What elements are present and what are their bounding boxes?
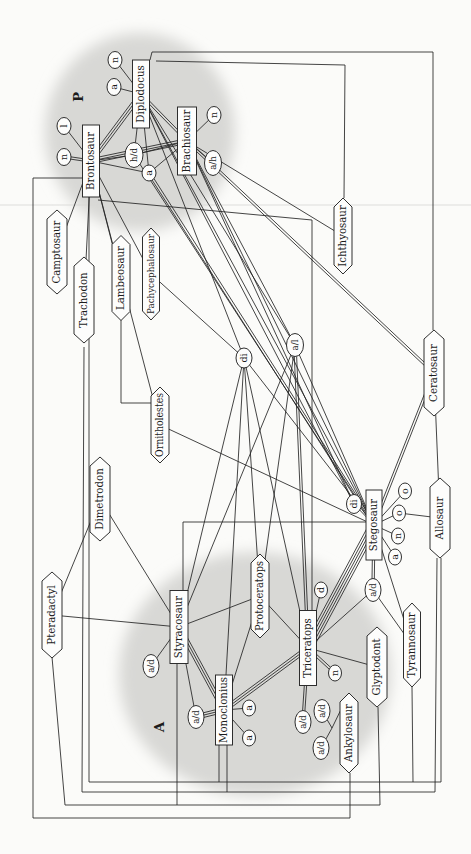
node-ah: a/h: [205, 151, 222, 176]
rotated-diagram-group: BrontosaurDiplodocusBrachiosaurStegosaur…: [33, 33, 450, 818]
node-n1: n: [108, 52, 122, 69]
node-ornith: Ornitholestes: [151, 387, 169, 463]
label-ad6: a/d: [368, 583, 378, 597]
label-ad2: a/d: [191, 710, 201, 724]
label-styraco: Styracosaur: [173, 596, 184, 658]
node-n3: n: [207, 107, 221, 124]
node-o1: o: [399, 483, 412, 499]
label-tracho: Trachodon: [78, 272, 89, 328]
node-tracho: Trachodon: [74, 257, 94, 343]
edge-al-stego: [295, 345, 374, 525]
label-proto: Protoceratops: [254, 561, 265, 631]
label-allo: Allosaur: [434, 497, 445, 541]
label-bronto: Brontosaur: [85, 132, 96, 190]
label-n2: n: [58, 154, 69, 160]
dinosaur-graph-diagram: BrontosaurDiplodocusBrachiosaurStegosaur…: [0, 0, 471, 854]
label-ichthyo: Ichthyosaur: [337, 205, 348, 267]
edge-brachio-stego: [187, 141, 374, 525]
label-o1: o: [399, 488, 410, 494]
label-ptera: Pteradactyl: [46, 585, 57, 644]
label-campto: Camptosaur: [51, 220, 62, 283]
scanned-book-figure-page: BrontosaurDiplodocusBrachiosaurStegosaur…: [0, 0, 471, 854]
group-label-A: A: [151, 721, 167, 733]
node-a2: a: [142, 165, 156, 181]
group-label-P: P: [70, 92, 86, 102]
label-ad5: a/d: [316, 741, 326, 755]
label-a1: a: [108, 84, 119, 90]
label-lambeo: Lambeosaur: [115, 246, 126, 310]
edge-dimetro-styraco: [100, 499, 179, 627]
node-tricer: Triceratops: [300, 611, 317, 686]
node-mono: Monoclonius: [216, 675, 233, 745]
label-hd: h/d: [129, 148, 139, 162]
node-dimetro: Dimetrodon: [90, 457, 110, 541]
node-ankylo: Ankylosaur: [340, 693, 358, 773]
node-ad1: a/d: [143, 655, 159, 678]
label-di1: di: [238, 353, 249, 362]
node-styraco: Styracosaur: [170, 591, 188, 664]
node-bronto: Brontosaur: [83, 125, 100, 197]
edge-pachy-di1: [151, 274, 244, 358]
node-ad3: a/d: [295, 711, 311, 734]
node-al: a/l: [287, 334, 304, 357]
node-o2: o: [393, 505, 406, 521]
node-cerato: Ceratosaur: [424, 330, 444, 416]
node-n2: n: [57, 149, 71, 166]
label-diplo: Diplodocus: [135, 65, 146, 123]
node-ptera: Pteradactyl: [42, 572, 62, 658]
node-di2: di: [347, 495, 362, 514]
node-a3: a: [389, 549, 402, 565]
label-n1: n: [109, 57, 120, 63]
label-dimetro: Dimetrodon: [94, 468, 105, 530]
label-a4: a: [243, 705, 254, 711]
label-n4: n: [392, 533, 403, 539]
label-pachy: Pachycephalosaur: [146, 233, 156, 314]
label-ah: a/h: [208, 156, 218, 170]
label-l1: l: [58, 124, 69, 127]
label-tyranno: Tyrannosaur: [406, 612, 417, 678]
node-ad6: a/d: [365, 579, 381, 602]
label-al: a/l: [290, 339, 300, 350]
node-campto: Camptosaur: [47, 210, 67, 294]
label-ornith: Ornitholestes: [154, 393, 165, 457]
route-lambeo-ornith-bend: [121, 320, 152, 403]
node-n5: n: [329, 665, 342, 681]
node-allo: Allosaur: [430, 478, 450, 558]
node-stego: Stegosaur: [366, 490, 382, 560]
label-ad3: a/d: [298, 715, 308, 729]
node-ad5: a/d: [313, 737, 329, 760]
node-tyranno: Tyrannosaur: [404, 603, 421, 687]
label-ankylo: Ankylosaur: [343, 704, 354, 763]
node-pachy: Pachycephalosaur: [143, 228, 160, 320]
node-l1: l: [57, 118, 71, 135]
label-a3: a: [389, 554, 400, 560]
label-n5: n: [329, 670, 340, 676]
node-diplo: Diplodocus: [133, 60, 150, 128]
node-a5: a: [243, 730, 256, 746]
label-a2: a: [143, 170, 154, 176]
node-di1: di: [236, 348, 252, 368]
label-stego: Stegosaur: [368, 499, 379, 552]
label-ad1: a/d: [146, 659, 156, 673]
node-lambeo: Lambeosaur: [112, 236, 130, 321]
label-a5: a: [243, 735, 254, 741]
node-a1: a: [107, 79, 121, 96]
label-di2: di: [348, 499, 359, 508]
label-glypto: Glyptodont: [371, 637, 382, 695]
label-n3: n: [208, 112, 219, 118]
node-glypto: Glyptodont: [367, 627, 387, 707]
node-d1: d: [315, 582, 328, 598]
node-ichthyo: Ichthyosaur: [334, 198, 352, 274]
label-o2: o: [393, 510, 404, 516]
label-cerato: Ceratosaur: [428, 344, 439, 402]
node-a4: a: [243, 700, 256, 716]
node-hd: h/d: [125, 143, 143, 168]
label-ad4: a/d: [317, 704, 327, 718]
label-brachio: Brachiosaur: [181, 109, 192, 172]
node-brachio: Brachiosaur: [178, 107, 197, 175]
label-mono: Monoclonius: [218, 677, 229, 743]
node-n4: n: [392, 528, 405, 544]
node-ad2: a/d: [188, 706, 204, 729]
edge-diplo-di2: [141, 94, 354, 504]
label-tricer: Triceratops: [302, 618, 313, 678]
